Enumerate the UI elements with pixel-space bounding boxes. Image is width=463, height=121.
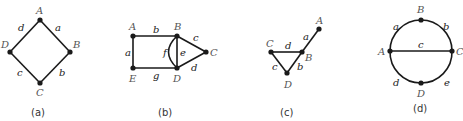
edge-b xyxy=(40,52,70,83)
figure-caption: (c) xyxy=(280,107,293,118)
vertex-label: D xyxy=(416,88,425,99)
figure-caption: (b) xyxy=(158,107,172,118)
vertex-label: D xyxy=(283,79,292,90)
vertex-b-C xyxy=(203,49,208,54)
edge-label: c xyxy=(272,61,278,72)
edge-label: b xyxy=(59,67,65,78)
vertex-label: B xyxy=(72,39,80,50)
edge-label: c xyxy=(193,32,199,43)
graph-figures: A B C D a b c d (a) A B C D E a b c d e … xyxy=(0,0,463,121)
edge-label: b xyxy=(153,24,159,35)
vertex-c-D xyxy=(284,70,289,75)
edge-label: d xyxy=(191,62,197,73)
vertex-label: D xyxy=(172,73,181,84)
vertex-label: A xyxy=(35,5,43,16)
edge-c xyxy=(10,52,40,83)
graph-c: A B C D a b c d (c) xyxy=(266,15,323,118)
edge-label: a xyxy=(303,31,309,42)
vertex-c-C xyxy=(268,49,273,54)
vertex-d-D xyxy=(418,80,423,85)
figure-caption: (a) xyxy=(31,107,45,118)
vertex-c-A xyxy=(316,26,321,31)
edge-label: a xyxy=(125,47,131,58)
vertex-a-A xyxy=(37,17,42,22)
edge-label: a xyxy=(55,22,61,33)
vertex-d-B xyxy=(418,17,423,22)
edge-label: b xyxy=(443,21,449,32)
vertex-b-B xyxy=(174,33,179,38)
edge-label: d xyxy=(18,22,24,33)
vertex-label: A xyxy=(128,21,136,32)
vertex-label: B xyxy=(304,52,312,63)
edge-label: d xyxy=(393,77,399,88)
edge-label: g xyxy=(153,70,159,81)
vertex-label: B xyxy=(173,21,181,32)
edge-label: b xyxy=(297,61,303,72)
vertex-label: C xyxy=(266,38,274,49)
graph-d: A B C D a b c d e (d) xyxy=(377,4,463,114)
graph-a: A B C D a b c d (a) xyxy=(0,5,80,118)
edge-label: c xyxy=(418,39,424,50)
edge-d xyxy=(10,20,40,52)
vertex-b-D xyxy=(174,65,179,70)
vertex-a-B xyxy=(67,49,72,54)
vertex-d-C xyxy=(449,48,454,53)
vertex-d-A xyxy=(387,48,392,53)
graph-b: A B C D E a b c d e f g (b) xyxy=(125,21,218,118)
vertex-b-A xyxy=(130,33,135,38)
edge-f xyxy=(169,36,178,68)
vertex-c-B xyxy=(299,49,304,54)
edge-label: e xyxy=(444,77,450,88)
edge-label: d xyxy=(285,40,291,51)
vertex-label: B xyxy=(416,4,424,15)
figure-caption: (d) xyxy=(413,103,427,114)
vertex-label: A xyxy=(377,46,385,57)
vertex-label: D xyxy=(0,39,9,50)
vertex-label: A xyxy=(315,15,323,26)
vertex-a-C xyxy=(37,80,42,85)
edge-label: a xyxy=(393,21,399,32)
vertex-label: C xyxy=(210,47,218,58)
vertex-b-E xyxy=(130,65,135,70)
vertex-a-D xyxy=(7,49,12,54)
vertex-label: E xyxy=(128,73,137,84)
vertex-label: C xyxy=(36,87,44,98)
edge-label: e xyxy=(180,47,186,58)
edge-label: c xyxy=(17,67,23,78)
vertex-label: C xyxy=(456,46,463,57)
